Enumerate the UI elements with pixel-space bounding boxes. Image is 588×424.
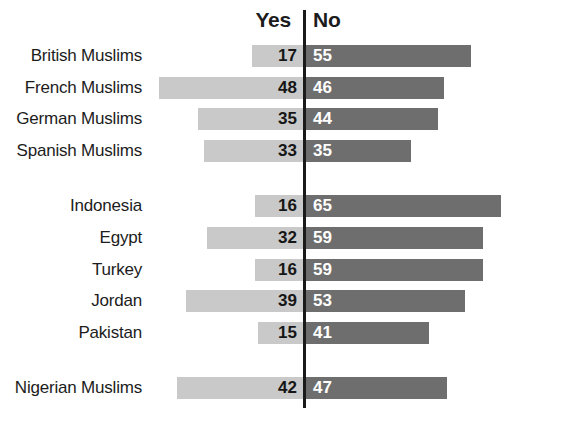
bar-yes: 15: [258, 322, 303, 344]
chart-row: Nigerian Muslims4247: [0, 375, 588, 401]
row-label: German Muslims: [0, 107, 142, 131]
bar-yes: 16: [255, 259, 303, 281]
row-label: Turkey: [0, 258, 142, 282]
bar-yes: 16: [255, 195, 303, 217]
bar-yes-value: 32: [278, 227, 297, 249]
row-label: Spanish Muslims: [0, 139, 142, 163]
column-header-yes: Yes: [255, 9, 291, 31]
bar-no-value: 47: [313, 377, 332, 399]
chart-row: Spanish Muslims3335: [0, 138, 588, 164]
chart-row: German Muslims3544: [0, 106, 588, 132]
bar-yes: 17: [252, 45, 303, 67]
row-label: Nigerian Muslims: [0, 376, 142, 400]
row-label: Indonesia: [0, 194, 142, 218]
diverging-bar-chart: Yes No British Muslims1755French Muslims…: [0, 0, 588, 424]
bar-no-value: 41: [313, 322, 332, 344]
bar-yes: 33: [204, 140, 303, 162]
bar-yes-value: 15: [278, 322, 297, 344]
row-label: French Muslims: [0, 76, 142, 100]
chart-row: Indonesia1665: [0, 193, 588, 219]
bar-no: 41: [306, 322, 429, 344]
row-label: Pakistan: [0, 321, 142, 345]
row-label: British Muslims: [0, 44, 142, 68]
row-label: Jordan: [0, 289, 142, 313]
bar-no: 44: [306, 108, 438, 130]
bar-yes: 32: [207, 227, 303, 249]
bar-no-value: 65: [313, 195, 332, 217]
chart-row: Jordan3953: [0, 288, 588, 314]
bar-no: 47: [306, 377, 447, 399]
chart-row: Pakistan1541: [0, 320, 588, 346]
bar-yes-value: 39: [278, 290, 297, 312]
bar-yes: 39: [186, 290, 303, 312]
bar-no: 59: [306, 259, 483, 281]
bar-no-value: 35: [313, 140, 332, 162]
bar-yes-value: 16: [278, 195, 297, 217]
bar-yes: 48: [159, 77, 303, 99]
bar-no: 65: [306, 195, 501, 217]
bar-yes: 42: [177, 377, 303, 399]
bar-no: 55: [306, 45, 471, 67]
chart-row: Turkey1659: [0, 257, 588, 283]
bar-yes: 35: [198, 108, 303, 130]
row-label: Egypt: [0, 226, 142, 250]
chart-row: British Muslims1755: [0, 43, 588, 69]
bar-yes-value: 35: [278, 108, 297, 130]
bar-no-value: 59: [313, 259, 332, 281]
bar-no: 35: [306, 140, 411, 162]
bar-no-value: 46: [313, 77, 332, 99]
bar-yes-value: 48: [278, 77, 297, 99]
bar-no-value: 55: [313, 45, 332, 67]
bar-no: 53: [306, 290, 465, 312]
bar-yes-value: 17: [278, 45, 297, 67]
column-header-no: No: [313, 9, 341, 31]
chart-row: French Muslims4846: [0, 75, 588, 101]
bar-yes-value: 42: [278, 377, 297, 399]
bar-no-value: 44: [313, 108, 332, 130]
bar-no-value: 53: [313, 290, 332, 312]
bar-yes-value: 16: [278, 259, 297, 281]
bar-no: 46: [306, 77, 444, 99]
bar-no-value: 59: [313, 227, 332, 249]
chart-row: Egypt3259: [0, 225, 588, 251]
bar-no: 59: [306, 227, 483, 249]
bar-yes-value: 33: [278, 140, 297, 162]
